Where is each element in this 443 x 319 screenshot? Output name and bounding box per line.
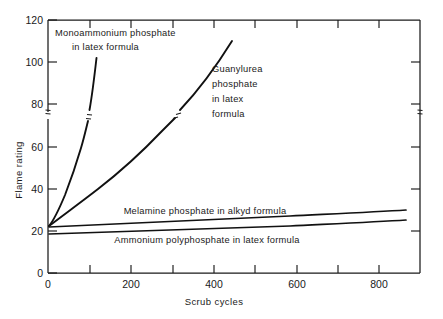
series-ammonium-polyphosphate bbox=[49, 220, 406, 234]
series-monoammonium-phosphate-segment-upper bbox=[90, 58, 97, 110]
y-tick-label-20: 20 bbox=[31, 225, 43, 237]
x-tick-label-800: 800 bbox=[370, 278, 388, 290]
series-guanylurea-phosphate bbox=[49, 41, 232, 226]
annotation-guanylurea-line1: Guanylurea bbox=[212, 64, 263, 74]
flame-rating-chart: 120 100 80 60 40 20 0 0 200 400 600 800 … bbox=[0, 0, 443, 319]
y-tick-label-60: 60 bbox=[31, 141, 43, 153]
x-axis-ticks-bottom bbox=[90, 265, 379, 273]
y-axis-title: Flame rating bbox=[13, 141, 24, 199]
annotation-guanylurea-line2: phosphate bbox=[212, 79, 258, 89]
y-tick-label-100: 100 bbox=[25, 56, 43, 68]
y-tick-label-120: 120 bbox=[25, 14, 43, 26]
y-axis-tick-labels: 120 100 80 60 40 20 0 bbox=[25, 14, 43, 279]
x-axis-tick-labels: 0 200 400 600 800 bbox=[45, 278, 388, 290]
y-tick-label-80: 80 bbox=[31, 98, 43, 110]
x-tick-label-200: 200 bbox=[122, 278, 140, 290]
y-tick-label-40: 40 bbox=[31, 183, 43, 195]
x-tick-label-600: 600 bbox=[288, 278, 306, 290]
annotation-monoammonium-line2: in latex formula bbox=[72, 42, 140, 52]
annotation-guanylurea: Guanylurea phosphate in latex formula bbox=[212, 64, 263, 119]
chart-svg: 120 100 80 60 40 20 0 0 200 400 600 800 … bbox=[0, 0, 443, 319]
y-axis-ticks-right bbox=[411, 62, 420, 231]
annotation-melamine: Melamine phosphate in alkyd formula bbox=[124, 206, 287, 216]
annotation-guanylurea-line4: formula bbox=[212, 109, 245, 119]
y-axis-ticks-left bbox=[48, 20, 57, 273]
annotation-monoammonium: Monoammonium phosphate in latex formula bbox=[55, 28, 176, 52]
y-tick-label-0: 0 bbox=[37, 267, 43, 279]
x-axis-title: Scrub cycles bbox=[185, 296, 244, 307]
annotation-ammonium-polyphosphate: Ammonium polyphosphate in latex formula bbox=[114, 235, 300, 245]
x-tick-label-400: 400 bbox=[205, 278, 223, 290]
x-axis-ticks-top bbox=[90, 20, 379, 28]
series-monoammonium-phosphate bbox=[49, 58, 97, 226]
annotation-monoammonium-line1: Monoammonium phosphate bbox=[55, 28, 176, 38]
annotation-guanylurea-line3: in latex bbox=[212, 94, 244, 104]
x-tick-label-0: 0 bbox=[45, 278, 51, 290]
